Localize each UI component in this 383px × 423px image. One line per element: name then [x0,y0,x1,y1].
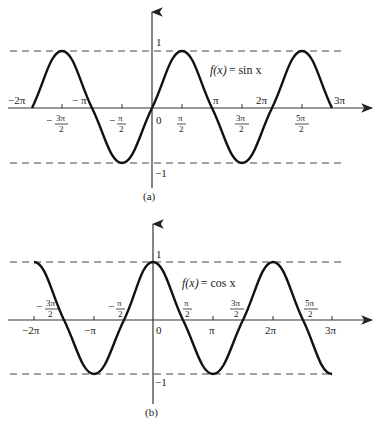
svg-text:2: 2 [118,309,123,319]
panel-b-label-pi-over-2: π 2 [183,298,192,319]
panel-a-caption: (a) [143,190,156,203]
panel-a-label-neg-3pi-over-2: − 3π 2 [46,113,68,134]
panel-a-function-label: f(x)= sin x [210,63,261,77]
panel-a-y-label-1: 1 [156,36,162,48]
panel-a-tick-label-pi: π [213,94,219,106]
svg-text:3π: 3π [56,113,66,123]
svg-text:2: 2 [308,309,313,319]
panel-b-tick-label-3pi: 3π [325,324,337,336]
panel-b-function-label: f(x)= cos x [182,276,235,290]
svg-text:3π: 3π [46,298,56,308]
svg-text:3π: 3π [231,298,241,308]
svg-text:2: 2 [179,124,184,134]
svg-text:2: 2 [119,124,124,134]
panel-a-y-label-neg1: −1 [155,167,167,179]
panel-b-tick-label-neg-pi: −π [84,324,96,336]
figure-canvas: −2π − π π 2π 3π − 3π 2 − π 2 0 π 2 3π 2 [0,0,383,423]
svg-text:2: 2 [59,124,64,134]
panel-a-tick-label-3pi: 3π [334,94,346,106]
svg-text:π: π [184,298,189,308]
panel-b-label-neg-pi-over-2: − π 2 [108,298,125,319]
panel-a-label-pi-over-2: π 2 [177,113,186,134]
panel-a-label-neg-pi-over-2: − π 2 [109,113,126,134]
panel-b-tick-label-2pi: 2π [265,324,277,336]
panel-b-y-label-1: 1 [156,248,162,260]
svg-text:5π: 5π [305,298,315,308]
svg-text:2: 2 [234,309,239,319]
panel-b-tick-label-neg-2pi: −2π [22,324,40,336]
panel-a-label-5pi-over-2: 5π 2 [295,113,309,134]
panel-a-label-3pi-over-2: 3π 2 [235,113,249,134]
panel-b-label-neg-3pi-over-2: − 3π 2 [36,298,58,319]
svg-text:2: 2 [299,124,304,134]
svg-text:π: π [118,113,123,123]
svg-text:2: 2 [48,309,53,319]
panel-a-tick-label-neg-2pi: −2π [8,94,26,106]
panel-a-sine-plot: −2π − π π 2π 3π − 3π 2 − π 2 0 π 2 3π 2 [8,12,372,203]
svg-text:5π: 5π [296,113,306,123]
svg-text:π: π [117,298,122,308]
svg-text:−: − [109,114,115,126]
svg-text:2: 2 [185,309,190,319]
panel-a-tick-label-2pi: 2π [256,94,268,106]
panel-b-tick-label-pi: π [209,324,215,336]
panel-b-cosine-plot: − 3π 2 − π 2 π 2 3π 2 5π 2 −2π −π 0 [8,224,372,419]
svg-text:−: − [46,114,52,126]
panel-b-y-label-neg1: −1 [155,376,167,388]
panel-b-caption: (b) [145,406,158,419]
panel-b-origin-label: 0 [156,324,162,336]
svg-text:−: − [36,300,42,312]
panel-a-origin-label: 0 [156,114,162,126]
svg-text:2: 2 [239,124,244,134]
svg-text:−: − [108,300,114,312]
panel-b-label-5pi-over-2: 5π 2 [304,298,318,319]
panel-b-label-3pi-over-2: 3π 2 [230,298,244,319]
panel-a-tick-label-neg-pi: − π [72,94,87,106]
svg-text:3π: 3π [236,113,246,123]
svg-text:π: π [178,113,183,123]
